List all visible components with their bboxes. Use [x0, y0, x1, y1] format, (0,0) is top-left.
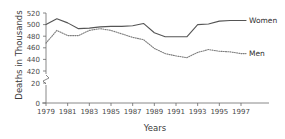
- x-tick-label: 1991: [167, 108, 185, 116]
- x-tick-label: 1989: [145, 108, 163, 116]
- y-tick-label: 0: [36, 100, 40, 108]
- y-tick-label: 20: [31, 80, 40, 88]
- chart-canvas: 020420440460480500520 197919811983198519…: [0, 0, 285, 139]
- line-chart: Deaths in Thousands Years 02042044046048…: [0, 0, 285, 139]
- series-label-men: Men: [249, 49, 265, 58]
- series-line-men: [46, 29, 241, 58]
- series-line-women: [46, 19, 241, 37]
- y-tick-label: 440: [27, 56, 40, 64]
- x-tick-label: 1987: [124, 108, 142, 116]
- x-tick-label: 1997: [232, 108, 250, 116]
- x-axis-ticks: 1979198119831985198719891991199319951997: [37, 103, 250, 116]
- x-tick-label: 1995: [210, 108, 228, 116]
- x-tick-label: 1979: [37, 108, 55, 116]
- y-tick-label: 480: [27, 33, 40, 41]
- x-tick-label: 1993: [189, 108, 207, 116]
- y-tick-label: 520: [27, 10, 40, 18]
- series-label-women: Women: [249, 16, 277, 25]
- y-axis-ticks: 020420440460480500520: [27, 10, 46, 108]
- x-tick-label: 1981: [59, 108, 77, 116]
- y-tick-label: 500: [27, 21, 40, 29]
- y-tick-label: 460: [27, 44, 40, 52]
- x-tick-label: 1985: [102, 108, 120, 116]
- y-tick-label: 420: [27, 68, 40, 76]
- x-tick-label: 1983: [80, 108, 98, 116]
